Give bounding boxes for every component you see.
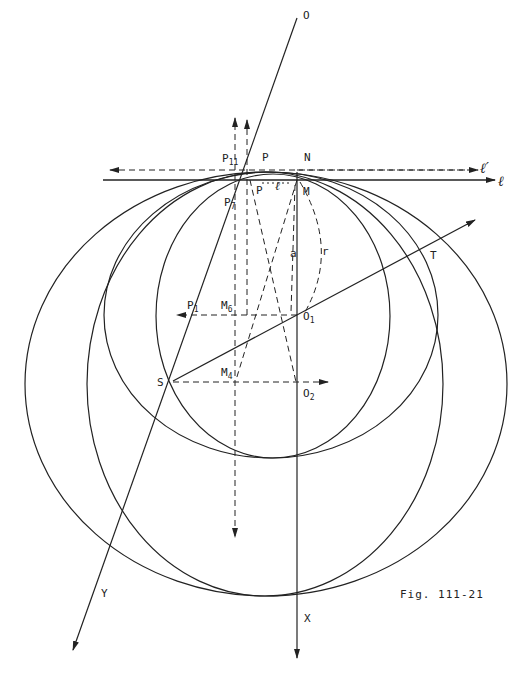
label-o2-base: O	[303, 387, 310, 400]
label-ell-prime: ℓ′	[480, 161, 489, 175]
line-m-m4	[236, 180, 297, 380]
label-s: S	[157, 377, 164, 388]
label-p-prime: P	[256, 185, 263, 196]
label-m4-sub: 4	[228, 372, 233, 381]
label-o1-base: O	[303, 310, 310, 323]
label-x: X	[304, 613, 311, 624]
label-p7-base: P	[224, 196, 231, 209]
circle-d	[25, 172, 507, 596]
label-p: P	[262, 152, 269, 163]
figure-caption: Fig. 111-21	[400, 589, 484, 600]
axis-y	[73, 18, 297, 650]
label-p11: P11	[222, 153, 238, 164]
label-m4-base: M	[221, 366, 228, 379]
label-n: N	[304, 152, 311, 163]
line-p-o2	[250, 180, 296, 382]
label-p1-sub: 1	[194, 305, 199, 314]
label-m: M	[303, 186, 310, 197]
label-o1-sub: 1	[310, 316, 315, 325]
label-p11-sub: 11	[229, 158, 239, 167]
circle-c	[87, 172, 443, 596]
label-p7-sub: 7	[231, 202, 236, 211]
label-ell-between: ℓ	[275, 180, 280, 192]
label-o1: O1	[303, 311, 314, 322]
label-o2: O2	[303, 388, 314, 399]
label-m6: M6	[221, 300, 232, 311]
figure-canvas: O N M P P ℓ P11 P7 P1 M6 M4 O1 O2 S T X …	[0, 0, 532, 686]
label-a: a	[290, 248, 297, 259]
label-m4: M4	[221, 367, 232, 378]
arc-r	[300, 182, 321, 312]
label-o2-sub: 2	[310, 393, 315, 402]
geometry-diagram	[0, 0, 532, 686]
label-m6-sub: 6	[228, 305, 233, 314]
label-t: T	[430, 250, 437, 261]
label-m6-base: M	[221, 299, 228, 312]
label-p7: P7	[224, 197, 235, 208]
label-p1: P1	[187, 300, 198, 311]
label-p1-base: P	[187, 299, 194, 312]
label-r: r	[322, 246, 329, 257]
label-p11-base: P	[222, 152, 229, 165]
label-o: O	[303, 10, 310, 21]
label-y: Y	[101, 588, 108, 599]
label-ell: ℓ	[498, 174, 504, 188]
